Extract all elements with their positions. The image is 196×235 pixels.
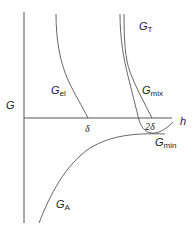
curve-g-el <box>56 14 88 118</box>
label-g-min: Gmin <box>155 136 176 150</box>
label-g-t-sub: T <box>148 25 153 34</box>
y-axis-label: G <box>6 99 15 111</box>
energy-diagram: G h δ 2δ GT Gel Gmix Gmin GA <box>0 0 196 235</box>
label-g-t: GT <box>139 20 153 34</box>
label-g-mix: Gmix <box>142 84 163 98</box>
label-g-min-sub: min <box>164 141 177 150</box>
label-g-el-sub: el <box>60 89 66 98</box>
label-g-mix-sub: mix <box>151 89 163 98</box>
tick-label-delta: δ <box>85 123 90 134</box>
x-axis-label: h <box>180 115 186 127</box>
tick-label-2delta: 2δ <box>145 121 155 132</box>
label-g-a-sub: A <box>65 203 71 212</box>
label-g-a: GA <box>56 198 71 212</box>
label-g-el: Gel <box>51 84 66 98</box>
